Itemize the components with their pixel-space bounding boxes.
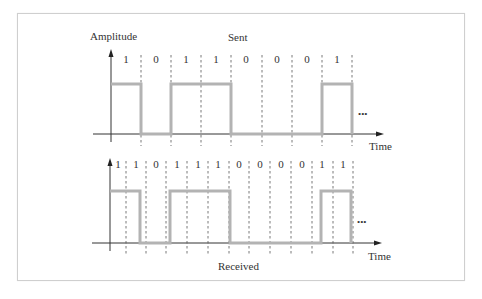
sent-bit-4: 0 [243, 53, 249, 65]
x-axis-arrow-icon [376, 132, 384, 137]
received-bit-2: 0 [153, 158, 159, 170]
received-bit-5: 1 [215, 158, 221, 170]
signal-diagram: Amplitude Sent Time 1 0 1 1 0 0 0 1 [0, 0, 482, 299]
received-bit-labels: 1 1 0 1 1 1 0 0 0 0 1 1 [115, 158, 346, 170]
sent-ellipsis: ••• [358, 109, 367, 119]
received-bit-boundaries [126, 161, 353, 254]
received-bit-0: 1 [115, 158, 121, 170]
received-ellipsis: ••• [357, 217, 366, 227]
sent-bit-1: 0 [153, 53, 159, 65]
sent-bit-7: 1 [334, 53, 340, 65]
received-bit-9: 0 [299, 158, 305, 170]
sent-plot: Amplitude Sent Time 1 0 1 1 0 0 0 1 [90, 30, 392, 152]
received-bit-10: 1 [319, 158, 325, 170]
received-plot: Time 1 1 0 1 1 1 0 0 0 0 [92, 158, 391, 272]
sent-waveform [111, 84, 352, 134]
sent-bit-labels: 1 0 1 1 0 0 0 1 [123, 53, 340, 65]
y-axis-arrow-icon [108, 158, 113, 166]
received-bit-3: 1 [174, 158, 180, 170]
y-axis-arrow-icon [109, 49, 114, 57]
sent-bit-3: 1 [213, 53, 219, 65]
received-bit-11: 1 [340, 158, 346, 170]
y-axis-label: Amplitude [90, 30, 137, 42]
received-bit-1: 1 [133, 158, 139, 170]
sent-bit-5: 0 [274, 53, 280, 65]
received-bit-8: 0 [278, 158, 284, 170]
sent-bit-6: 0 [304, 53, 310, 65]
received-title: Received [218, 260, 259, 272]
x-axis-label: Time [368, 250, 391, 262]
sent-bit-0: 1 [123, 53, 129, 65]
sent-bit-boundaries [141, 55, 352, 146]
received-bit-4: 1 [195, 158, 201, 170]
x-axis-arrow-icon [374, 241, 382, 246]
sent-title: Sent [228, 31, 248, 43]
x-axis-label: Time [369, 140, 392, 152]
sent-bit-2: 1 [183, 53, 189, 65]
received-bit-6: 0 [236, 158, 242, 170]
received-bit-7: 0 [257, 158, 263, 170]
